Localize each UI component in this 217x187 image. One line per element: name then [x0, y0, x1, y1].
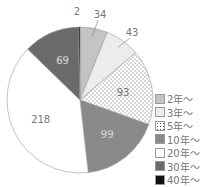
legend-swatch	[155, 134, 165, 144]
legend-swatch	[155, 107, 165, 117]
pie-slices	[7, 27, 153, 173]
slice-value-label: 218	[31, 114, 50, 125]
legend-item: 5年～	[155, 119, 200, 133]
legend-swatch	[155, 175, 165, 185]
legend-item: 3年～	[155, 106, 200, 120]
slice-value-label: 34	[94, 9, 107, 20]
legend-swatch	[155, 94, 165, 104]
legend-swatch	[155, 121, 165, 131]
legend-item: 10年～	[155, 133, 200, 147]
legend-item: 40年～	[155, 173, 200, 187]
slice-value-label: 93	[117, 87, 130, 98]
legend-item: 2年～	[155, 92, 200, 106]
slice-value-label: 2	[74, 6, 80, 17]
legend-swatch	[155, 148, 165, 158]
slice-value-label: 99	[101, 129, 114, 140]
legend-label: 40年～	[167, 172, 200, 187]
slice-value-label: 43	[126, 27, 139, 38]
legend-swatch	[155, 161, 165, 171]
legend-item: 20年～	[155, 146, 200, 160]
legend-item: 30年～	[155, 160, 200, 174]
legend: 2年～3年～5年～10年～20年～30年～40年～	[155, 92, 200, 187]
slice-value-label: 69	[56, 55, 69, 66]
